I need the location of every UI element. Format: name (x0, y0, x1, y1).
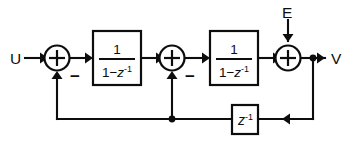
arrowhead-to-output (317, 53, 325, 64)
delay-block[interactable]: z-1 (232, 105, 258, 134)
junction-dot-output-tap (310, 55, 317, 62)
sum-node-3[interactable] (276, 46, 301, 71)
arrowhead-into-integrator2 (202, 53, 210, 64)
integrator-block-1-numerator: 1 (113, 42, 121, 57)
arrowhead-into-integrator1 (85, 53, 93, 64)
arrowhead-into-sum1-feedback (52, 71, 63, 79)
block-diagram-svg: − − 1 1−z-1 1 1−z- (0, 0, 353, 141)
arrowhead-into-sum2-feedback (167, 71, 178, 79)
integrator-block-2-numerator: 1 (230, 42, 238, 57)
integrator-block-2[interactable]: 1 1−z-1 (210, 31, 258, 85)
sum-node-1[interactable] (45, 46, 70, 71)
integrator-block-1-denominator-exponent: -1 (124, 64, 132, 74)
input-signal-label: U (10, 50, 21, 67)
integrator-block-1[interactable]: 1 1−z-1 (93, 31, 141, 85)
block-diagram-canvas: − − 1 1−z-1 1 1−z- (0, 0, 353, 141)
noise-signal-label: E (282, 4, 292, 21)
output-signal-label: V (331, 50, 342, 67)
delay-block-var: z (237, 112, 245, 128)
integrator-block-1-denominator-prefix: 1− (102, 65, 118, 80)
integrator-block-2-denominator-prefix: 1− (219, 65, 235, 80)
sum-node-2[interactable] (160, 46, 185, 71)
sum-node-2-minus-sign: − (185, 67, 195, 86)
arrowhead-noise-down (283, 34, 294, 42)
sum-node-1-minus-sign: − (70, 67, 80, 86)
delay-block-exponent: -1 (245, 112, 253, 122)
integrator-block-2-denominator-exponent: -1 (241, 64, 249, 74)
junction-dot-feedback-bus (169, 116, 176, 123)
arrowhead-into-delay (282, 114, 290, 125)
